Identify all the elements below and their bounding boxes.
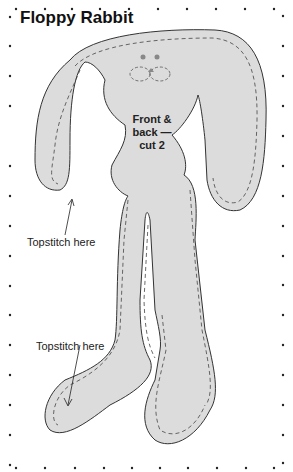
- piece-label-line-1: Front &: [122, 113, 182, 126]
- piece-label-line-2: back —: [122, 126, 182, 139]
- ear-arrow-icon: [65, 200, 72, 235]
- piece-label-line-3: cut 2: [122, 139, 182, 152]
- piece-label: Front & back — cut 2: [122, 113, 182, 152]
- ear-topstitch-label: Topstitch here: [27, 236, 95, 248]
- page-title: Floppy Rabbit: [20, 8, 133, 28]
- right-eye-icon: [155, 55, 160, 60]
- foot-topstitch-label: Topstitch here: [36, 340, 104, 352]
- left-eye-icon: [141, 55, 146, 60]
